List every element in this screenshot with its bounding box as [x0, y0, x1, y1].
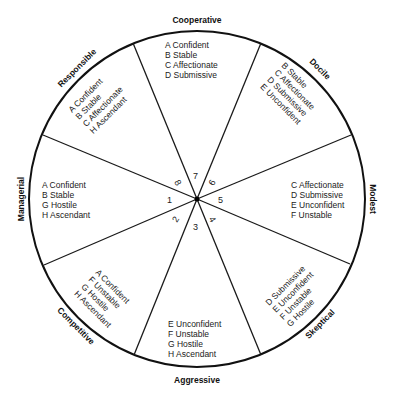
trait: A Confident	[42, 180, 87, 190]
segment-title-docile: Docile	[308, 56, 333, 81]
trait: E Unconfident	[291, 200, 345, 210]
trait: D Submissive	[165, 70, 217, 80]
segment-docile: Docile B Stable C Affectionate D Submiss…	[258, 56, 332, 127]
trait: E Unconfident	[168, 319, 222, 329]
segment-number-8: 8	[172, 178, 183, 187]
trait: C Affectionate	[165, 60, 218, 70]
segment-numbers: 1 2 3 4 5 6 7 8	[167, 171, 223, 232]
segment-aggressive: Aggressive E Unconfident F Unstable G Ho…	[168, 319, 222, 385]
segment-responsible: Responsible A Confident B Stable C Affec…	[55, 46, 132, 135]
segment-number-1: 1	[167, 195, 172, 205]
segment-number-7: 7	[193, 171, 198, 181]
segment-number-2: 2	[170, 215, 181, 224]
segment-number-6: 6	[207, 178, 218, 187]
trait: C Affectionate	[291, 180, 344, 190]
center-dot	[195, 197, 200, 202]
personality-wheel: 1 2 3 4 5 6 7 8 Cooperative A Confident …	[0, 0, 394, 396]
segment-cooperative: Cooperative A Confident B Stable C Affec…	[165, 15, 222, 80]
segment-skeptical: Skeptical D Submissive E Unconfident F U…	[263, 262, 336, 340]
segment-managerial: Managerial A Confident B Stable G Hostil…	[16, 177, 91, 221]
trait: G Hostile	[168, 339, 203, 349]
trait: B Stable	[42, 190, 74, 200]
segment-title-cooperative: Cooperative	[172, 15, 221, 25]
trait: F Unstable	[168, 329, 209, 339]
segment-number-5: 5	[218, 195, 223, 205]
segment-number-4: 4	[207, 215, 218, 224]
trait: D Submissive	[291, 190, 343, 200]
segment-title-aggressive: Aggressive	[174, 375, 220, 385]
trait: A Confident	[165, 40, 210, 50]
trait: G Hostile	[42, 200, 77, 210]
segment-title-managerial: Managerial	[16, 177, 26, 221]
trait: H Ascendant	[168, 349, 217, 359]
trait: F Unstable	[291, 210, 332, 220]
trait: B Stable	[165, 50, 197, 60]
segment-number-3: 3	[193, 222, 198, 232]
trait: H Ascendant	[42, 210, 91, 220]
segment-title-modest: Modest	[368, 184, 378, 214]
